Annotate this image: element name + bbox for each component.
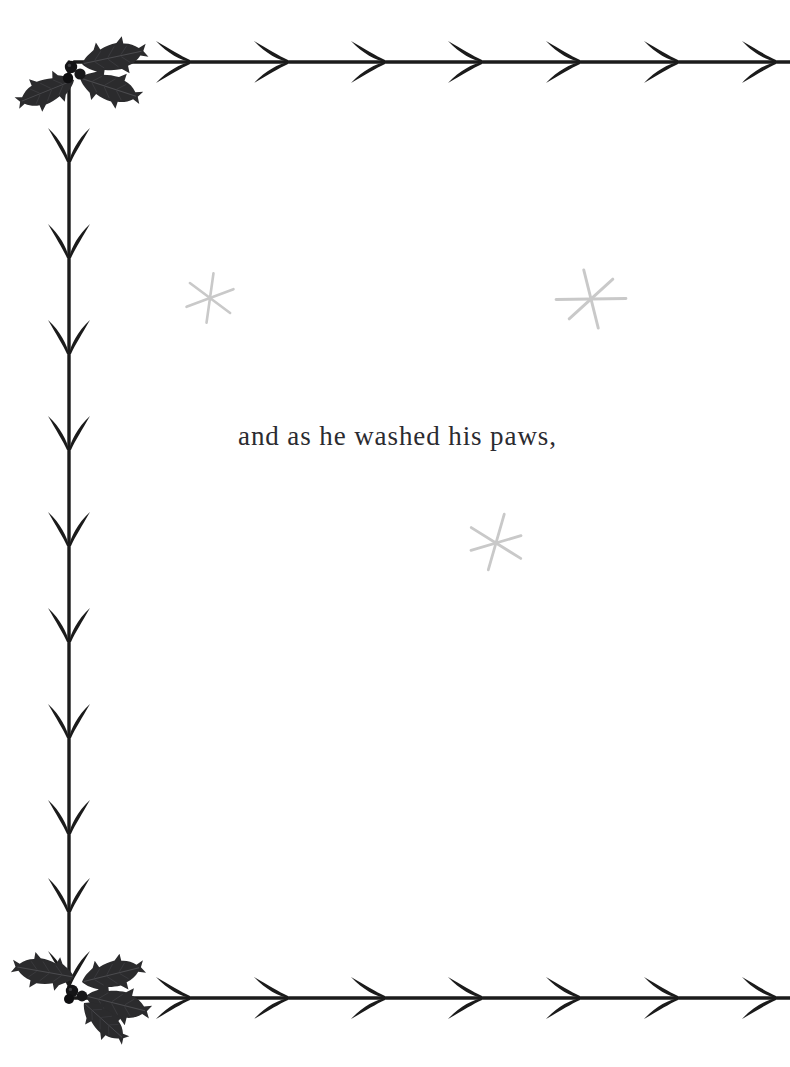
holly-berry (63, 73, 73, 83)
storybook-page: and as he washed his paws, (0, 0, 790, 1067)
sparkle-star-left (185, 270, 236, 326)
holly-berry (77, 991, 88, 1002)
sparkle-star-right (551, 262, 631, 337)
holly-cluster-top-left (10, 32, 151, 120)
holly-berry (74, 68, 85, 79)
top-barbed-vine-border (74, 41, 790, 83)
sparkle-star-center (461, 506, 531, 577)
left-barbed-vine-border (48, 62, 90, 1000)
bottom-barbed-vine-border (74, 977, 790, 1019)
page-artwork (0, 0, 790, 1067)
holly-berry (64, 994, 74, 1004)
story-body-text: and as he washed his paws, (238, 420, 758, 454)
